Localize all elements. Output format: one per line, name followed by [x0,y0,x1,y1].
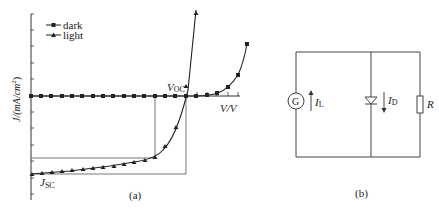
x-axis-label: V/V [220,102,238,114]
voc-label: VOC [167,81,185,94]
jv-plot: dark light J/(mA/cm2) VOC V/V JSC (a) [10,10,249,202]
dark-markers [29,42,249,98]
dark-curve [29,42,249,98]
equivalent-circuit [288,52,423,157]
id-arrow-icon [382,92,387,113]
id-label: ID [387,94,398,107]
jsc-label: JSC [40,176,55,190]
figure-canvas: dark light J/(mA/cm2) VOC V/V JSC (a) [0,0,439,212]
legend-label-light: light [63,29,83,41]
caption-b: (b) [355,187,368,200]
il-arrow-icon [309,90,314,111]
y-axis-label: J/(mA/cm2) [10,77,23,122]
resistor-icon [417,96,423,113]
il-label: IL [314,96,324,109]
circuit-labels: G IL ID R (b) [292,94,434,200]
max-power-rectangle [31,96,155,158]
diode-icon [365,97,377,104]
jsc-voc-box [31,96,186,174]
caption-a: (a) [129,189,142,202]
legend-item-light: light [46,29,83,41]
resistor-label: R [426,98,434,110]
legend: dark light [46,19,83,41]
source-label: G [292,96,299,107]
